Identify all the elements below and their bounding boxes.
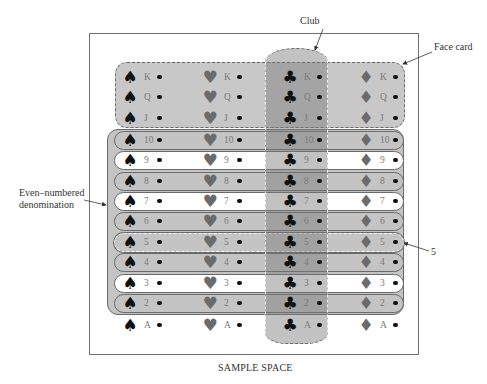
face-card-arrow	[403, 52, 432, 64]
even-arrow	[84, 200, 106, 205]
five-arrow	[404, 243, 429, 251]
annotation-arrows	[0, 0, 487, 384]
club-arrow	[315, 29, 323, 50]
